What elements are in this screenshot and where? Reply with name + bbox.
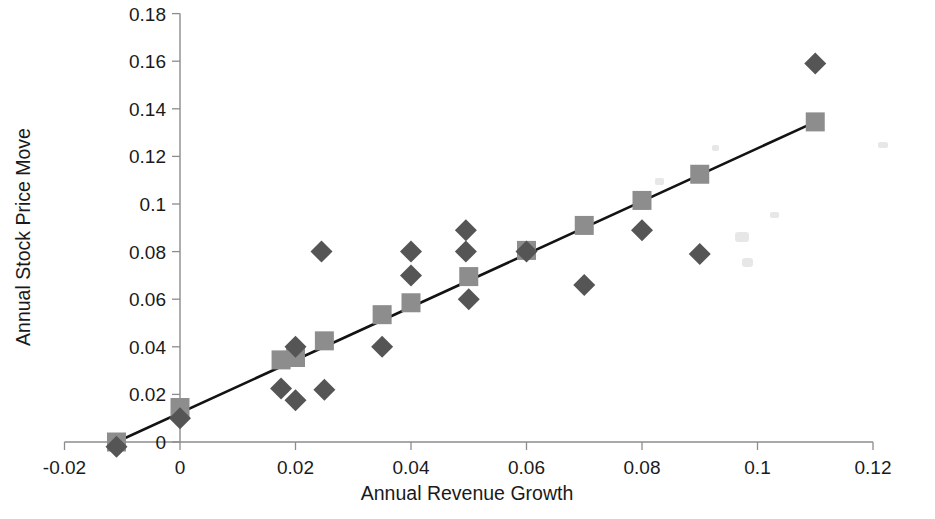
paper-speckles <box>655 142 888 267</box>
x-tick-labels: -0.0200.020.040.060.080.10.12 <box>43 457 892 478</box>
x-tick-label: 0.02 <box>277 457 314 478</box>
x-tick-label: 0.08 <box>624 457 661 478</box>
data-point-diamond <box>631 219 653 241</box>
x-tick-label: 0 <box>175 457 186 478</box>
y-axis-title: Annual Stock Price Move <box>12 128 34 346</box>
y-tick-label: 0.06 <box>129 289 166 310</box>
data-point-diamond <box>400 264 422 286</box>
x-tick-label: -0.02 <box>43 457 86 478</box>
data-point-square <box>806 112 825 131</box>
y-tick-labels: 00.020.040.060.080.10.120.140.160.18 <box>129 4 166 453</box>
y-tick-label: 0 <box>155 432 166 453</box>
data-point-diamond <box>689 243 711 265</box>
data-point-square <box>690 165 709 184</box>
y-tick-label: 0.04 <box>129 337 166 358</box>
x-axis-title: Annual Revenue Growth <box>361 482 573 504</box>
data-point-diamond <box>458 288 480 310</box>
x-tick-label: 0.06 <box>508 457 545 478</box>
data-point-square <box>373 305 392 324</box>
data-point-diamond <box>313 379 335 401</box>
data-point-diamond <box>455 241 477 263</box>
x-tick-label: 0.1 <box>744 457 770 478</box>
data-point-diamond <box>455 219 477 241</box>
data-point-diamond <box>371 336 393 358</box>
data-point-diamond <box>310 241 332 263</box>
fitted-series-markers <box>107 112 825 451</box>
x-tick-label: 0.12 <box>855 457 892 478</box>
y-tick-label: 0.08 <box>129 242 166 263</box>
data-point-square <box>633 191 652 210</box>
data-point-diamond <box>804 53 826 75</box>
data-point-square <box>402 293 421 312</box>
y-tick-label: 0.16 <box>129 51 166 72</box>
data-point-square <box>315 331 334 350</box>
chart-canvas: -0.0200.020.040.060.080.10.12 00.020.040… <box>0 0 935 519</box>
y-tick-label: 0.14 <box>129 99 166 120</box>
scatter-chart: -0.0200.020.040.060.080.10.12 00.020.040… <box>0 0 935 519</box>
data-point-square <box>575 216 594 235</box>
y-tick-label: 0.12 <box>129 146 166 167</box>
data-point-square <box>459 267 478 286</box>
x-tick-label: 0.04 <box>393 457 430 478</box>
data-point-diamond <box>400 241 422 263</box>
data-point-diamond <box>573 274 595 296</box>
y-tick-label: 0.18 <box>129 4 166 25</box>
y-tick-label: 0.02 <box>129 384 166 405</box>
y-tick-label: 0.1 <box>140 194 166 215</box>
